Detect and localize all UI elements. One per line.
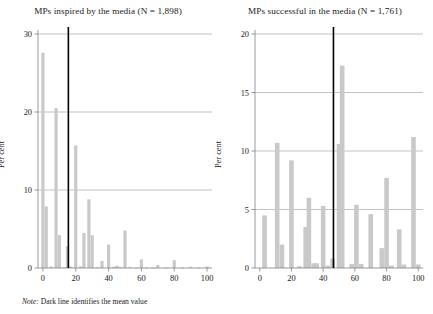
plot-area-right: 05101520020406080100 [217,0,433,292]
y-tick-label: 30 [24,30,32,39]
histogram-bar [349,264,354,268]
figure-note-prefix: Note: [22,297,39,306]
histogram-bar [397,229,402,268]
histogram-bar [359,264,364,268]
histogram-bar [74,146,77,268]
chart-panel-left: MPs inspired by the media (N = 1,898) Pe… [0,0,216,292]
y-tick-label: 10 [241,147,249,156]
figure-container: MPs inspired by the media (N = 1,898) Pe… [0,0,433,314]
x-tick-label: 80 [382,274,390,283]
y-tick-label: 15 [241,89,249,98]
histogram-bar [280,245,285,268]
histogram-bar [379,248,384,268]
y-tick-label: 20 [24,108,32,117]
histogram-bar [140,259,143,268]
histogram-bar [402,264,407,268]
plot-area-left: 0102030020406080100 [0,0,216,292]
x-tick-label: 40 [104,274,112,283]
histogram-bar [107,245,110,268]
figure-note-text: Dark line identifies the mean value [39,297,147,306]
histogram-bar [321,206,326,268]
histogram-bar [41,53,44,268]
y-tick-label: 20 [241,30,249,39]
x-tick-label: 20 [287,274,295,283]
histogram-right: 05101520020406080100 [217,0,433,292]
x-tick-label: 20 [72,274,80,283]
histogram-bar [411,137,416,268]
histogram-bar [91,235,94,268]
x-tick-label: 100 [201,274,214,283]
x-tick-label: 0 [258,274,262,283]
histogram-bar [315,263,320,268]
x-tick-label: 40 [319,274,327,283]
x-tick-label: 100 [412,274,425,283]
histogram-bar [368,214,373,268]
histogram-bar [156,265,159,268]
histogram-bar [45,206,48,268]
histogram-bar [416,264,421,268]
histogram-bar [123,231,126,268]
histogram-bar [58,235,61,268]
histogram-bar [87,199,90,268]
histogram-left: 0102030020406080100 [0,0,216,292]
histogram-bar [82,233,85,268]
x-tick-label: 60 [137,274,145,283]
y-tick-label: 10 [24,186,32,195]
histogram-bar [384,178,389,268]
histogram-bar [173,260,176,268]
x-tick-label: 80 [170,274,178,283]
y-tick-label: 5 [245,206,249,215]
histogram-bar [54,108,57,268]
x-tick-label: 60 [351,274,359,283]
histogram-bar [262,215,267,268]
y-tick-label: 0 [28,264,32,273]
histogram-bar [307,198,312,268]
histogram-bar [289,160,294,268]
histogram-bar [340,66,345,268]
histogram-bar [100,261,103,268]
figure-note: Note: Dark line identifies the mean valu… [22,297,147,306]
x-tick-label: 0 [41,274,45,283]
histogram-bar [275,143,280,268]
chart-panel-right: MPs successful in the media (N = 1,761) … [217,0,433,292]
histogram-bar [354,205,359,268]
y-tick-label: 0 [245,264,249,273]
